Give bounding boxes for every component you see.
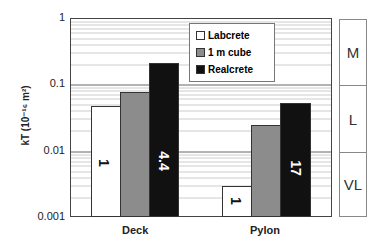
legend-item-labcrete: Labcrete	[196, 27, 268, 44]
band-m: M	[339, 19, 367, 86]
bar-label-deck-labcrete: 1	[96, 159, 112, 167]
bar-deck-realcrete	[149, 63, 179, 217]
x-label-deck: Deck	[122, 224, 148, 236]
ytick-0.001: 0.001	[20, 210, 65, 222]
legend-label: Realcrete	[208, 64, 253, 75]
legend-swatch-black	[196, 65, 205, 74]
x-label-pylon: Pylon	[250, 224, 280, 236]
bar-label-pylon-realcrete: 17	[288, 160, 304, 176]
legend-label: Labcrete	[208, 30, 250, 41]
legend-swatch-white	[196, 31, 205, 40]
bar-deck-1m-cube	[120, 92, 150, 217]
bar-pylon-1m-cube	[251, 125, 281, 217]
legend-swatch-grey	[196, 48, 205, 57]
legend-item-1m-cube: 1 m cube	[196, 44, 268, 61]
legend-item-realcrete: Realcrete	[196, 61, 268, 78]
band-vl: VL	[339, 152, 367, 217]
band-l: L	[339, 85, 367, 153]
y-axis-label: kT (10⁻¹⁶ m²)	[20, 71, 31, 161]
ytick-1: 1	[20, 11, 65, 23]
legend-label: 1 m cube	[208, 47, 251, 58]
bar-label-pylon-labcrete: 1	[228, 197, 244, 205]
legend: Labcrete 1 m cube Realcrete	[189, 23, 275, 82]
bar-label-deck-realcrete: 4.4	[156, 151, 172, 170]
